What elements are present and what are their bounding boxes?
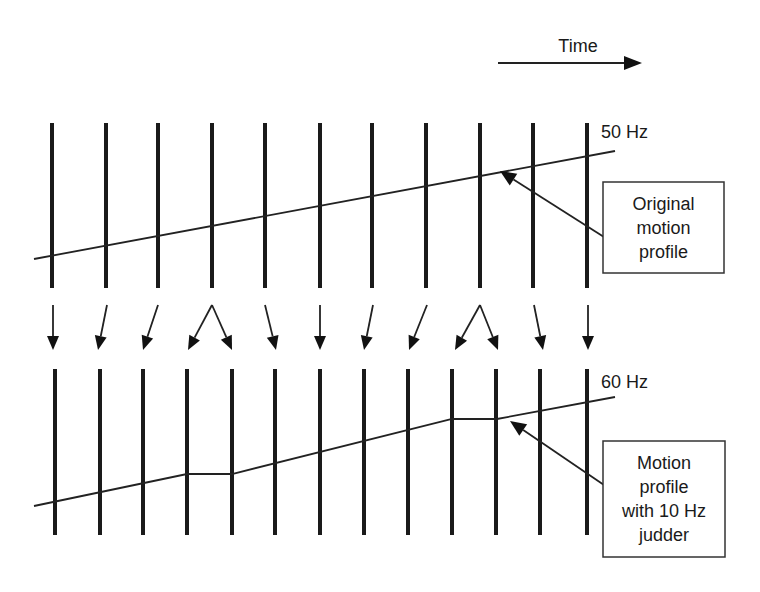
top-rate-label: 50 Hz	[601, 122, 648, 142]
frame-rate-conversion-diagram: Time 50 Hz 60 Hz Original motion profile…	[0, 0, 760, 592]
frame-mapping-arrow-head-icon	[142, 335, 153, 350]
frame-mapping-arrow-line	[367, 305, 373, 336]
frame-mapping-arrow-line	[462, 305, 480, 338]
frame-mapping-arrow-line	[212, 305, 226, 337]
frame-mapping-arrow-head-icon	[314, 336, 326, 350]
frame-mapping-arrow-line	[147, 305, 158, 337]
time-label: Time	[558, 36, 597, 56]
frame-mapping-arrow-line	[195, 305, 212, 338]
callout-text-line: motion	[636, 218, 690, 238]
frame-mapping-arrows	[47, 305, 594, 350]
frame-mapping-arrow-head-icon	[582, 336, 594, 350]
judder-motion-profile-callout: Motion profile with 10 Hz judder	[510, 421, 725, 557]
callout-text-line: Motion	[637, 453, 691, 473]
frame-mapping-arrow-line	[265, 305, 273, 336]
callout-pointer-line	[523, 430, 604, 485]
callout-text-line: profile	[639, 477, 688, 497]
frame-mapping-arrow-head-icon	[361, 335, 373, 350]
frame-mapping-arrow-head-icon	[95, 335, 107, 350]
judder-motion-profile-line	[34, 397, 615, 506]
callout-text-line: with 10 Hz	[621, 501, 706, 521]
frame-mapping-arrow-head-icon	[267, 335, 279, 350]
bottom-rate-label: 60 Hz	[601, 372, 648, 392]
callout-arrow-head-icon	[500, 171, 517, 185]
callout-text-line: Original	[632, 194, 694, 214]
frame-mapping-arrow-head-icon	[409, 335, 420, 350]
callout-text-line: judder	[638, 525, 689, 545]
frame-mapping-arrow-head-icon	[455, 335, 467, 350]
frame-mapping-arrow-line	[414, 305, 427, 337]
callout-text-line: profile	[639, 242, 688, 262]
frame-mapping-arrow-head-icon	[534, 335, 546, 350]
frame-mapping-arrow-line	[534, 305, 540, 336]
callout-pointer-line	[514, 180, 604, 237]
time-arrow-head-icon	[624, 56, 642, 70]
frame-mapping-arrow-head-icon	[47, 336, 59, 350]
callout-arrow-head-icon	[510, 421, 527, 436]
time-axis: Time	[498, 36, 642, 70]
frame-mapping-arrow-line	[480, 305, 493, 337]
frame-mapping-arrow-head-icon	[487, 335, 498, 350]
frame-mapping-arrow-line	[101, 305, 107, 336]
original-motion-profile-line	[34, 151, 615, 259]
